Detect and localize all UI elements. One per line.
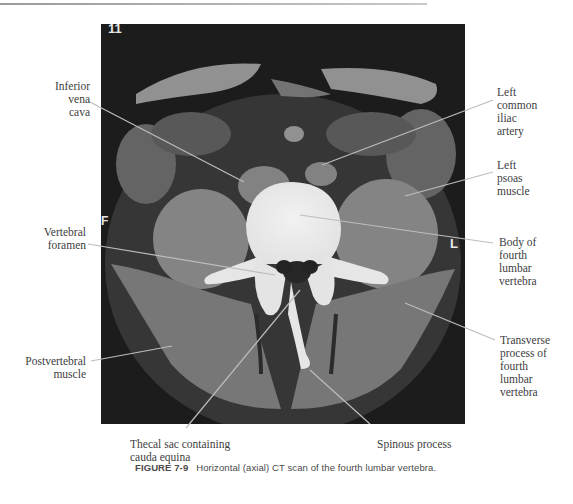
label-vertebral-foramen: Vertebral foramen [20,226,86,252]
ct-scan-image: 11 F L [101,24,465,424]
label-thecal-sac: Thecal sac containing cauda equina [130,438,270,464]
figure-caption-text: Horizontal (axial) CT scan of the fourth… [196,462,436,473]
figure-number: FIGURE 7-9 [135,462,188,473]
ct-scan-graphic [101,24,465,424]
slice-number-marker: 11 [108,24,122,36]
figure-caption: FIGURE 7-9Horizontal (axial) CT scan of … [135,462,436,473]
label-postvertebral-muscle: Postvertebral muscle [10,355,86,381]
page-top-rule [0,3,427,5]
label-inferior-vena-cava: Inferior vena cava [30,80,90,119]
label-left-psoas-muscle: Left psoas muscle [497,159,567,198]
label-transverse-process: Transverse process of fourth lumbar vert… [500,334,572,399]
label-spinous-process: Spinous process [377,438,497,451]
orientation-marker-right: L [450,236,458,251]
orientation-marker-left: F [101,214,108,228]
label-body-of-vertebra: Body of fourth lumbar vertebra [499,236,569,288]
label-left-common-iliac-artery: Left common iliac artery [497,86,567,138]
